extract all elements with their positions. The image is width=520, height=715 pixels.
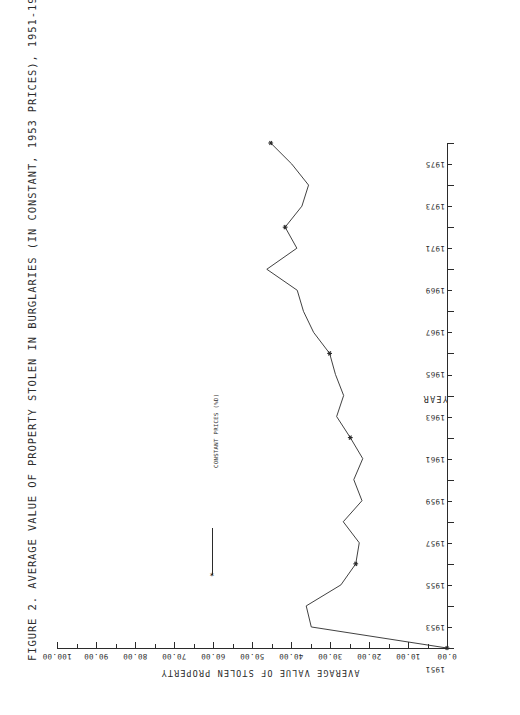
year-tick [448, 564, 454, 565]
year-tick-label: 1953 [405, 620, 445, 632]
data-point-marker [283, 225, 288, 229]
value-axis-line [57, 648, 447, 649]
legend-line-swatch [212, 528, 213, 575]
value-tick-minor [233, 644, 234, 648]
year-tick-label: 1967 [405, 325, 445, 337]
value-tick-minor [311, 644, 312, 648]
year-tick [448, 438, 454, 439]
value-tick [213, 642, 214, 648]
year-tick-label: 1955 [405, 578, 445, 590]
year-tick [448, 648, 454, 649]
year-tick-minor [448, 585, 452, 586]
year-tick [448, 606, 454, 607]
value-tick-minor [350, 644, 351, 648]
value-tick-minor [77, 644, 78, 648]
figure-canvas: FIGURE 2. AVERAGE VALUE OF PROPERTY STOL… [0, 0, 520, 715]
value-tick [57, 642, 58, 648]
year-tick-minor [448, 543, 452, 544]
year-tick [448, 396, 454, 397]
year-tick-label: 1963 [405, 410, 445, 422]
value-tick [96, 642, 97, 648]
page-title: FIGURE 2. AVERAGE VALUE OF PROPERTY STOL… [26, 1, 38, 661]
year-tick-minor [448, 375, 452, 376]
series-line [267, 143, 447, 648]
year-tick [448, 143, 454, 144]
year-tick [448, 269, 454, 270]
value-tick [135, 642, 136, 648]
year-tick-minor [448, 290, 452, 291]
legend-marker-swatch: ✶ [209, 572, 215, 578]
year-tick-label: 1957 [405, 536, 445, 548]
year-tick [448, 227, 454, 228]
year-tick-minor [448, 248, 452, 249]
year-tick-minor [448, 332, 452, 333]
data-point-marker [353, 562, 358, 566]
value-tick-minor [155, 644, 156, 648]
year-tick-label: 1961 [405, 452, 445, 464]
value-tick [330, 642, 331, 648]
value-tick-minor [389, 644, 390, 648]
year-tick-minor [448, 459, 452, 460]
value-tick [369, 642, 370, 648]
data-point-marker [327, 351, 332, 355]
year-tick [448, 522, 454, 523]
year-tick-label: 1965 [405, 367, 445, 379]
year-tick-minor [448, 627, 452, 628]
year-tick [448, 353, 454, 354]
year-tick-label: 1973 [405, 199, 445, 211]
legend-entry-label: CONSTANT PRICES (%D) [213, 394, 219, 468]
year-tick-label: 1951 [405, 662, 445, 674]
value-tick [408, 642, 409, 648]
year-tick-label: 1969 [405, 283, 445, 295]
value-tick [252, 642, 253, 648]
value-tick [291, 642, 292, 648]
year-tick [448, 185, 454, 186]
series-plot [0, 0, 520, 715]
year-tick-minor [448, 417, 452, 418]
value-tick-minor [272, 644, 273, 648]
year-axis-title: YEAR [422, 394, 448, 404]
value-tick-minor [116, 644, 117, 648]
value-tick-minor [194, 644, 195, 648]
year-tick-minor [448, 501, 452, 502]
year-tick-label: 1959 [405, 494, 445, 506]
year-tick-label: 1975 [405, 157, 445, 169]
value-tick [174, 642, 175, 648]
data-point-marker [348, 436, 353, 440]
value-tick-label: 100.00 [27, 652, 87, 661]
year-tick-label: 1971 [405, 241, 445, 253]
year-tick [448, 311, 454, 312]
legend: CONSTANT PRICES (%D) ✶ [206, 468, 220, 578]
year-tick-minor [448, 164, 452, 165]
year-tick [448, 480, 454, 481]
data-point-marker [268, 141, 273, 145]
year-tick-minor [448, 206, 452, 207]
value-tick-minor [428, 644, 429, 648]
